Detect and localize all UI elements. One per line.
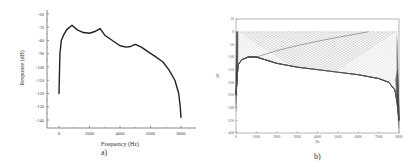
chart-a-panel: -60-70-80-90-100-110-120-130-14002000400… xyxy=(0,0,210,167)
x-tick-label: 1000 xyxy=(253,135,260,139)
x-tick-label: 2000 xyxy=(273,135,280,139)
chart-a-caption: a) xyxy=(101,148,107,157)
lower-envelope-curve xyxy=(236,57,399,120)
filter-bank-curves xyxy=(236,32,399,121)
x-tick-label: 0 xyxy=(235,135,237,139)
x-tick-label: 5000 xyxy=(334,135,341,139)
x-tick-label: 0 xyxy=(58,131,61,136)
y-tick-label: -80 xyxy=(38,38,45,43)
chart-a-plot: -60-70-80-90-100-110-120-130-14002000400… xyxy=(0,0,210,167)
x-axis-label: Hz xyxy=(315,140,320,144)
y-tick-label: -90 xyxy=(38,51,45,56)
y-tick-label: -100 xyxy=(36,65,45,70)
y-tick-label: -200 xyxy=(227,81,234,85)
y-tick-label: -400 xyxy=(227,131,234,135)
x-tick-label: 7000 xyxy=(375,135,382,139)
response-curve xyxy=(59,25,181,117)
x-tick-label: 4000 xyxy=(116,131,126,136)
x-tick-label: 2000 xyxy=(85,131,95,136)
chart-b-plot: 500-50-100-150-200-250-300-350-400010002… xyxy=(210,0,420,167)
y-tick-label: -50 xyxy=(229,43,234,47)
y-tick-label: -140 xyxy=(36,118,45,123)
x-tick-label: 6000 xyxy=(146,131,156,136)
y-tick-label: -100 xyxy=(227,55,234,59)
chart-b-caption: b) xyxy=(314,152,321,161)
y-tick-label: -130 xyxy=(36,104,45,109)
y-tick-label: 50 xyxy=(230,17,234,21)
x-tick-label: 8000 xyxy=(395,135,402,139)
y-tick-label: -150 xyxy=(227,68,234,72)
filter-curve xyxy=(236,32,399,121)
y-tick-label: -110 xyxy=(36,78,45,83)
x-tick-label: 3000 xyxy=(294,135,301,139)
y-tick-label: -70 xyxy=(38,25,45,30)
y-axis-label: dB xyxy=(215,73,220,78)
x-axis-label: Frequency (Hz) xyxy=(101,141,139,148)
y-tick-label: -60 xyxy=(38,12,45,17)
plot-frame xyxy=(236,19,399,133)
x-tick-label: 8000 xyxy=(177,131,187,136)
y-tick-label: 0 xyxy=(232,30,234,34)
y-tick-label: -350 xyxy=(227,119,234,123)
filter-curve xyxy=(236,32,399,121)
y-tick-label: -120 xyxy=(36,91,45,96)
y-tick-label: -250 xyxy=(227,93,234,97)
x-tick-label: 6000 xyxy=(355,135,362,139)
y-tick-label: -300 xyxy=(227,106,234,110)
x-tick-label: 4000 xyxy=(314,135,321,139)
chart-b-panel: 500-50-100-150-200-250-300-350-400010002… xyxy=(210,0,420,167)
y-axis-label: Response (dB) xyxy=(19,50,26,86)
